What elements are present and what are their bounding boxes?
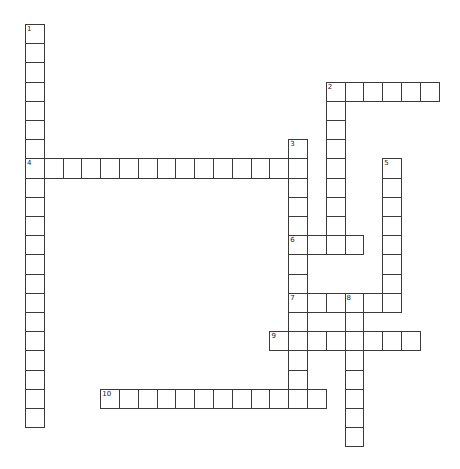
crossword-cell[interactable] — [194, 389, 214, 409]
crossword-cell[interactable] — [25, 62, 45, 82]
crossword-cell[interactable] — [401, 331, 421, 351]
crossword-cell[interactable] — [157, 389, 177, 409]
crossword-cell[interactable] — [382, 293, 402, 313]
crossword-cell[interactable] — [345, 82, 365, 102]
crossword-cell[interactable] — [25, 139, 45, 159]
crossword-cell[interactable] — [25, 389, 45, 409]
crossword-cell[interactable] — [345, 389, 365, 409]
crossword-cell[interactable] — [363, 293, 383, 313]
crossword-cell[interactable]: 5 — [382, 158, 402, 178]
crossword-cell[interactable] — [119, 389, 139, 409]
crossword-cell[interactable] — [25, 178, 45, 198]
crossword-cell[interactable] — [382, 178, 402, 198]
crossword-cell[interactable] — [25, 370, 45, 390]
crossword-cell[interactable] — [307, 293, 327, 313]
crossword-cell[interactable] — [382, 197, 402, 217]
crossword-cell[interactable] — [382, 331, 402, 351]
crossword-cell[interactable] — [345, 408, 365, 428]
crossword-cell[interactable] — [175, 158, 195, 178]
crossword-cell[interactable] — [401, 82, 421, 102]
crossword-cell[interactable]: 4 — [25, 158, 45, 178]
crossword-cell[interactable] — [326, 139, 346, 159]
crossword-cell[interactable] — [288, 350, 308, 370]
crossword-cell[interactable] — [251, 389, 271, 409]
crossword-cell[interactable] — [307, 235, 327, 255]
crossword-cell[interactable] — [326, 197, 346, 217]
crossword-cell[interactable] — [288, 274, 308, 294]
crossword-cell[interactable] — [288, 254, 308, 274]
crossword-cell[interactable] — [345, 312, 365, 332]
crossword-cell[interactable] — [25, 216, 45, 236]
crossword-cell[interactable]: 7 — [288, 293, 308, 313]
crossword-cell[interactable] — [44, 158, 64, 178]
crossword-cell[interactable]: 6 — [288, 235, 308, 255]
crossword-cell[interactable] — [232, 389, 252, 409]
crossword-cell[interactable] — [288, 331, 308, 351]
crossword-cell[interactable] — [63, 158, 83, 178]
crossword-cell[interactable] — [345, 235, 365, 255]
crossword-cell[interactable] — [382, 235, 402, 255]
crossword-cell[interactable] — [25, 350, 45, 370]
crossword-cell[interactable]: 2 — [326, 82, 346, 102]
crossword-cell[interactable] — [25, 101, 45, 121]
crossword-cell[interactable] — [25, 120, 45, 140]
crossword-cell[interactable] — [288, 197, 308, 217]
crossword-cell[interactable] — [213, 158, 233, 178]
crossword-cell[interactable] — [25, 43, 45, 63]
crossword-cell[interactable] — [138, 389, 158, 409]
crossword-cell[interactable] — [175, 389, 195, 409]
crossword-cell[interactable] — [288, 216, 308, 236]
crossword-cell[interactable] — [345, 350, 365, 370]
crossword-cell[interactable] — [345, 331, 365, 351]
crossword-cell[interactable] — [326, 178, 346, 198]
crossword-cell[interactable] — [138, 158, 158, 178]
crossword-cell[interactable] — [25, 82, 45, 102]
crossword-cell[interactable] — [100, 158, 120, 178]
crossword-cell[interactable] — [288, 158, 308, 178]
crossword-cell[interactable] — [326, 331, 346, 351]
crossword-cell[interactable]: 9 — [269, 331, 289, 351]
crossword-cell[interactable]: 3 — [288, 139, 308, 159]
crossword-cell[interactable] — [326, 216, 346, 236]
crossword-cell[interactable] — [269, 389, 289, 409]
crossword-cell[interactable] — [326, 235, 346, 255]
crossword-cell[interactable] — [157, 158, 177, 178]
crossword-cell[interactable] — [307, 389, 327, 409]
crossword-cell[interactable] — [269, 158, 289, 178]
crossword-cell[interactable] — [81, 158, 101, 178]
crossword-cell[interactable] — [194, 158, 214, 178]
crossword-cell[interactable] — [25, 274, 45, 294]
crossword-cell[interactable] — [119, 158, 139, 178]
crossword-cell[interactable] — [382, 82, 402, 102]
crossword-cell[interactable] — [25, 293, 45, 313]
crossword-cell[interactable] — [25, 254, 45, 274]
crossword-cell[interactable] — [326, 120, 346, 140]
crossword-cell[interactable] — [25, 408, 45, 428]
crossword-cell[interactable] — [251, 158, 271, 178]
crossword-cell[interactable] — [326, 158, 346, 178]
crossword-cell[interactable] — [25, 312, 45, 332]
crossword-cell[interactable] — [326, 293, 346, 313]
crossword-cell[interactable] — [382, 216, 402, 236]
crossword-cell[interactable] — [288, 178, 308, 198]
crossword-cell[interactable] — [382, 254, 402, 274]
crossword-cell[interactable] — [363, 82, 383, 102]
crossword-cell[interactable]: 8 — [345, 293, 365, 313]
crossword-cell[interactable] — [288, 370, 308, 390]
crossword-cell[interactable] — [363, 331, 383, 351]
crossword-cell[interactable] — [288, 389, 308, 409]
crossword-cell[interactable] — [345, 370, 365, 390]
crossword-cell[interactable] — [25, 235, 45, 255]
crossword-cell[interactable] — [345, 427, 365, 447]
crossword-cell[interactable] — [232, 158, 252, 178]
crossword-cell[interactable]: 1 — [25, 24, 45, 44]
crossword-cell[interactable] — [307, 331, 327, 351]
crossword-cell[interactable] — [288, 312, 308, 332]
crossword-cell[interactable] — [25, 197, 45, 217]
crossword-cell[interactable] — [420, 82, 440, 102]
crossword-cell[interactable] — [213, 389, 233, 409]
crossword-cell[interactable] — [382, 274, 402, 294]
crossword-cell[interactable] — [25, 331, 45, 351]
crossword-cell[interactable] — [326, 101, 346, 121]
crossword-cell[interactable]: 10 — [100, 389, 120, 409]
